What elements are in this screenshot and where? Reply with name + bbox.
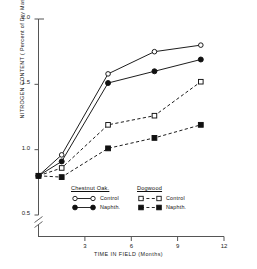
legend-sample-filled-square-dashed — [137, 203, 163, 212]
legend-group-chestnut-oak: Chestnut Oak. Control — [71, 185, 135, 212]
data-series-layer — [36, 43, 203, 180]
data-point-marker — [152, 49, 157, 54]
data-point-marker — [36, 173, 41, 178]
x-tick-label-6: 6 — [123, 243, 139, 249]
data-point-marker — [59, 175, 64, 180]
legend-label-dogwood-naphth: Naphth. — [163, 204, 186, 210]
axis-break-mark-upper — [35, 217, 43, 223]
legend: Chestnut Oak. Control — [71, 185, 203, 219]
legend-label-dogwood-control: Control — [163, 195, 185, 201]
x-tick-label-12: 12 — [216, 243, 232, 249]
series-line — [39, 60, 201, 176]
legend-item-dogwood-naphth: Naphth. — [137, 203, 201, 212]
x-tick-marks — [85, 237, 224, 242]
legend-item-chestnut-oak-naphth: Naphth. — [71, 203, 135, 212]
y-tick-marks — [35, 19, 39, 215]
series-chestnut-oak-naphth — [36, 57, 203, 178]
data-point-marker — [59, 166, 64, 171]
y-axis-title: NITROGEN CONTENT ( Percent of Dry Mass ) — [19, 0, 25, 143]
data-point-marker — [59, 153, 64, 158]
data-point-marker — [106, 146, 111, 151]
legend-group-title-dogwood: Dogwood — [137, 185, 201, 191]
data-point-marker — [59, 159, 64, 164]
legend-sample-filled-circle-solid — [71, 203, 97, 212]
legend-group-title-chestnut-oak: Chestnut Oak. — [71, 185, 135, 191]
data-point-marker — [106, 81, 111, 86]
x-tick-label-3: 3 — [77, 243, 93, 249]
data-point-marker — [152, 113, 157, 118]
legend-sample-open-circle-solid — [71, 194, 97, 203]
legend-item-dogwood-control: Control — [137, 194, 201, 203]
legend-sample-open-square-dashed — [137, 194, 163, 203]
plot-canvas — [0, 0, 257, 269]
series-dogwood-naphth — [36, 122, 203, 179]
data-point-marker — [106, 123, 111, 128]
data-point-marker — [198, 122, 203, 127]
legend-group-dogwood: Dogwood Control — [137, 185, 201, 212]
x-axis-title: TIME IN FIELD (Months) — [0, 251, 257, 257]
data-point-marker — [106, 72, 111, 77]
data-point-marker — [198, 57, 203, 62]
y-tick-label-1.0: 1.0 — [8, 145, 30, 151]
legend-label-chestnut-oak-naphth: Naphth. — [97, 204, 120, 210]
nitrogen-content-line-chart: 2.0 1.5 1.0 0.5 3 6 9 12 NITROGEN CONTEN… — [0, 0, 257, 269]
x-tick-label-9: 9 — [170, 243, 186, 249]
data-point-marker — [199, 79, 204, 84]
y-tick-label-0.5: 0.5 — [8, 210, 30, 216]
series-chestnut-oak-control — [36, 43, 203, 178]
data-point-marker — [152, 69, 157, 74]
data-point-marker — [199, 43, 204, 48]
data-point-marker — [152, 136, 157, 141]
legend-item-chestnut-oak-control: Control — [71, 194, 135, 203]
legend-label-chestnut-oak-control: Control — [97, 195, 119, 201]
